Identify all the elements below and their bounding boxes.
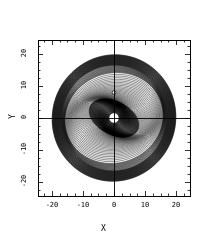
x-axis-label: X [0, 224, 207, 233]
y-tick-label: -20 [20, 170, 28, 192]
x-tick-label: 20 [165, 201, 187, 209]
x-tick-label: 0 [103, 201, 125, 209]
figure-root: CLOSED GAS ORBITS X Y -20-1001020 20100-… [0, 0, 207, 249]
orbit-plot-canvas [0, 0, 207, 249]
x-tick-label: 10 [134, 201, 156, 209]
x-tick-label: -10 [72, 201, 94, 209]
y-tick-label: 20 [20, 42, 28, 64]
x-tick-label: -20 [41, 201, 63, 209]
y-axis-label: Y [8, 97, 17, 137]
y-tick-label: -10 [20, 138, 28, 160]
y-tick-label: 0 [20, 106, 28, 128]
y-tick-label: 10 [20, 74, 28, 96]
